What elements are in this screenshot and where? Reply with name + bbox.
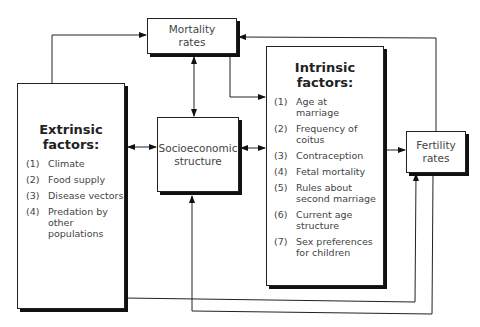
intrinsic-item: (3)Contraception xyxy=(274,150,383,161)
intrinsic-item: (4)Fetal mortality xyxy=(274,166,383,177)
node-socioeconomic-structure: Socioeconomic structure xyxy=(157,117,239,192)
extrinsic-list: (1)Climate (2)Food supply (3)Disease vec… xyxy=(26,158,124,239)
intrinsic-item: (5)Rules about second marriage xyxy=(274,182,383,204)
fertility-label-1: Fertility xyxy=(416,139,455,152)
intrinsic-title-2: factors: xyxy=(267,75,383,90)
mortality-label-1: Mortality xyxy=(169,23,216,36)
intrinsic-title: Intrinsic factors: xyxy=(267,60,383,90)
extrinsic-title-1: Extrinsic xyxy=(18,122,124,137)
intrinsic-item: (7)Sex preferences for children xyxy=(274,236,383,258)
fertility-label-2: rates xyxy=(423,152,450,165)
node-intrinsic-factors: Intrinsic factors: (1)Age at marriage (2… xyxy=(266,46,384,286)
node-extrinsic-factors: Extrinsic factors: (1)Climate (2)Food su… xyxy=(17,83,125,309)
intrinsic-item: (6)Current age structure xyxy=(274,209,383,231)
edge-extrinsic-to-mortality xyxy=(52,35,146,83)
mortality-label-2: rates xyxy=(179,36,206,49)
intrinsic-list: (1)Age at marriage (2)Frequency of coitu… xyxy=(274,96,383,258)
socio-label-1: Socioeconomic xyxy=(159,142,238,155)
edge-mortality-to-intrinsic xyxy=(230,56,265,97)
extrinsic-item: (1)Climate xyxy=(26,158,124,169)
node-mortality-rates: Mortality rates xyxy=(147,18,237,54)
intrinsic-title-1: Intrinsic xyxy=(267,60,383,75)
extrinsic-item: (4)Predation by other populations xyxy=(26,206,124,239)
extrinsic-title: Extrinsic factors: xyxy=(18,122,124,152)
extrinsic-title-2: factors: xyxy=(18,137,124,152)
extrinsic-item: (3)Disease vectors xyxy=(26,190,124,201)
intrinsic-item: (1)Age at marriage xyxy=(274,96,383,118)
extrinsic-item: (2)Food supply xyxy=(26,174,124,185)
node-fertility-rates: Fertility rates xyxy=(406,131,466,173)
intrinsic-item: (2)Frequency of coitus xyxy=(274,123,383,145)
socio-label-2: structure xyxy=(174,155,222,168)
